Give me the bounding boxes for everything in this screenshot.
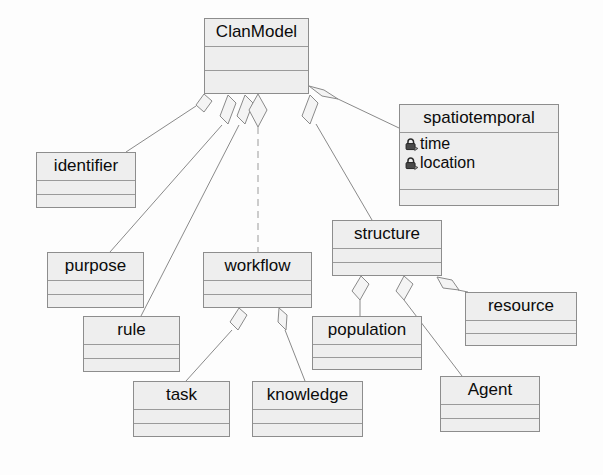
attributes-compartment: [333, 249, 441, 262]
attributes-compartment: [466, 321, 576, 333]
class-name-identifier: identifier: [37, 153, 135, 180]
association-clanmodel-identifier: [126, 94, 212, 152]
uml-class-agent[interactable]: Agent: [440, 376, 540, 432]
association-structure-resource: [437, 277, 468, 292]
attributes-compartment: [441, 405, 539, 418]
class-name-purpose: purpose: [48, 253, 143, 280]
operations-compartment: [441, 419, 539, 432]
operations-compartment: [333, 263, 441, 276]
association-workflow-task: [186, 308, 247, 381]
lock-icon: [404, 156, 419, 171]
uml-class-resource[interactable]: resource: [465, 292, 577, 346]
attribute-row: time: [404, 134, 556, 153]
attributes-compartment: time location: [400, 133, 558, 189]
attributes-compartment: [134, 410, 229, 423]
uml-class-identifier[interactable]: identifier: [36, 152, 136, 208]
class-name-population: population: [313, 317, 421, 344]
attributes-compartment: [313, 345, 421, 357]
class-name-clanmodel: ClanModel: [205, 19, 308, 46]
attributes-compartment: [48, 281, 143, 294]
attributes-compartment: [37, 181, 135, 194]
uml-class-rule[interactable]: rule: [83, 316, 180, 372]
class-name-structure: structure: [333, 221, 441, 248]
association-structure-population: [352, 276, 369, 316]
uml-class-knowledge[interactable]: knowledge: [252, 381, 363, 437]
operations-compartment: [205, 71, 308, 94]
uml-class-task[interactable]: task: [133, 381, 230, 437]
class-name-spatiotemporal: spatiotemporal: [400, 105, 558, 132]
uml-class-clanmodel[interactable]: ClanModel: [204, 18, 309, 94]
class-name-knowledge: knowledge: [253, 382, 362, 409]
class-name-task: task: [134, 382, 229, 409]
uml-class-workflow[interactable]: workflow: [203, 252, 312, 308]
attributes-compartment: [204, 281, 311, 294]
uml-class-purpose[interactable]: purpose: [47, 252, 144, 308]
class-name-workflow: workflow: [204, 253, 311, 280]
attributes-compartment: [205, 47, 308, 70]
operations-compartment: [134, 424, 229, 437]
attribute-row: location: [404, 153, 556, 172]
uml-class-diagram: ClanModel spatiotemporal time: [0, 0, 603, 475]
operations-compartment: [204, 295, 311, 308]
operations-compartment: [400, 190, 558, 205]
operations-compartment: [313, 358, 421, 370]
uml-class-spatiotemporal[interactable]: spatiotemporal time: [399, 104, 559, 206]
uml-class-structure[interactable]: structure: [332, 220, 442, 276]
attributes-compartment: [84, 345, 179, 358]
attribute-label: time: [420, 134, 450, 153]
association-clanmodel-spatiotemporal: [309, 86, 399, 128]
class-name-rule: rule: [84, 317, 179, 344]
class-name-agent: Agent: [441, 377, 539, 404]
association-workflow-knowledge: [278, 308, 305, 381]
operations-compartment: [84, 359, 179, 372]
association-clanmodel-workflow: [249, 94, 267, 252]
lock-icon: [404, 137, 419, 152]
operations-compartment: [253, 424, 362, 437]
class-name-resource: resource: [466, 293, 576, 320]
operations-compartment: [37, 195, 135, 208]
attributes-compartment: [253, 410, 362, 423]
operations-compartment: [466, 334, 576, 346]
attribute-label: location: [420, 153, 475, 172]
association-clanmodel-structure: [302, 95, 372, 220]
uml-class-population[interactable]: population: [312, 316, 422, 370]
operations-compartment: [48, 295, 143, 308]
